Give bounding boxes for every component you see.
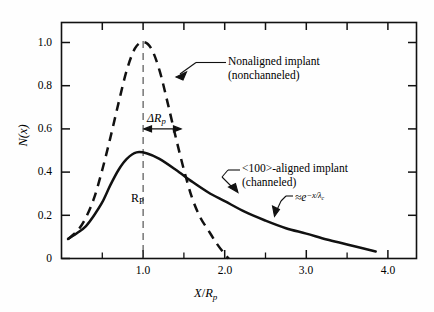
x-axis-title-den: R <box>205 286 213 300</box>
exponential-leader-line <box>273 196 294 217</box>
x-axis-top-ticks <box>102 23 388 31</box>
y-tick-label-1.0: 1.0 <box>6 36 52 48</box>
chart-figure: 1.0 0.8 0.6 0.4 0.2 0 1.0 2.0 3.0 4.0 N(… <box>0 0 434 312</box>
x-tick-label-4.0: 4.0 <box>368 264 408 276</box>
annotation-aligned-line1: <100>-aligned implant <box>242 162 348 176</box>
y-axis-right-ticks <box>408 43 417 216</box>
y-tick-label-0: 0 <box>6 252 52 264</box>
annotation-delta-rp: ΔRp <box>147 112 166 129</box>
annotation-rp-sub: P <box>139 196 144 206</box>
annotation-exponential-tail: ≈e−x/λc <box>295 189 324 205</box>
annotation-nonaligned-line1: Nonaligned implant <box>228 55 320 69</box>
x-axis-title: X/Rp <box>194 286 217 302</box>
aligned-leader-line <box>222 170 240 193</box>
annotation-exp-base: ≈e <box>295 191 306 203</box>
x-tick-label-1.0: 1.0 <box>123 264 163 276</box>
annotation-nonaligned-line2: (nonchanneled) <box>228 69 320 83</box>
annotation-delta-rp-text: ΔR <box>147 111 161 125</box>
y-tick-label-0.2: 0.2 <box>6 209 52 221</box>
x-tick-label-2.0: 2.0 <box>205 264 245 276</box>
annotation-rp: RP <box>131 192 144 209</box>
series-nonaligned-curve <box>68 42 229 259</box>
annotation-exp-exponent-sub: c <box>322 195 325 201</box>
y-axis-major-ticks <box>62 43 71 259</box>
x-axis-title-den-sub: p <box>213 292 218 302</box>
annotation-aligned: <100>-aligned implant (channeled) <box>242 162 348 189</box>
y-axis-title-text: N(x) <box>16 124 30 146</box>
annotation-exp-exponent: −x/λ <box>306 191 321 200</box>
annotation-rp-text: R <box>131 191 139 205</box>
annotation-aligned-line2: (channeled) <box>242 176 348 190</box>
x-tick-label-3.0: 3.0 <box>286 264 326 276</box>
annotation-delta-rp-sub: p <box>161 116 165 126</box>
y-tick-label-0.8: 0.8 <box>6 79 52 91</box>
x-axis-title-num: X <box>194 286 202 300</box>
nonaligned-leader-line <box>176 63 226 81</box>
y-axis-title: N(x) <box>16 104 31 168</box>
annotation-nonaligned: Nonaligned implant (nonchanneled) <box>228 55 320 82</box>
